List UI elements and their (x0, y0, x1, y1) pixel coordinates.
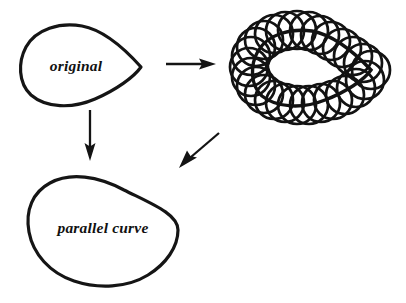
offset-circle (323, 29, 361, 67)
diagram-canvas: original (0, 0, 406, 303)
offset-circle (312, 22, 350, 60)
parallel-curve-diagram: original (0, 0, 406, 303)
arrow-original-to-circles (166, 59, 216, 70)
original-label: original (50, 57, 103, 74)
parallel-curve-group: parallel curve (28, 177, 178, 286)
original-curve-group: original (21, 25, 141, 106)
circle-family-group (230, 11, 390, 124)
arrow-circles-to-parallel (179, 133, 219, 168)
parallel-curve-label: parallel curve (55, 219, 148, 236)
arrow-original-to-parallel (85, 110, 96, 161)
arrow-shaft (191, 133, 219, 157)
